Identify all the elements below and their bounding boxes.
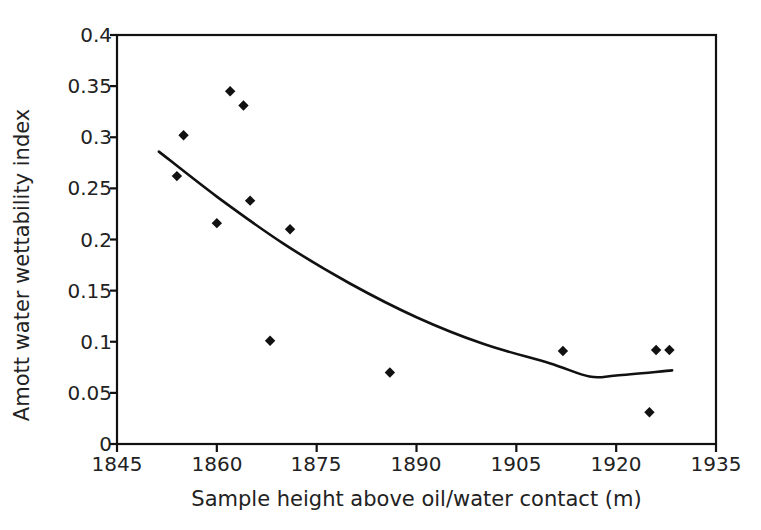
data-point-marker xyxy=(285,224,295,234)
x-axis-title: Sample height above oil/water contact (m… xyxy=(117,487,716,511)
trendline xyxy=(159,152,672,378)
y-tick-label: 0.15 xyxy=(52,279,112,303)
x-tick-label: 1920 xyxy=(571,452,661,476)
data-point-marker xyxy=(644,407,654,417)
x-tick-label: 1935 xyxy=(671,452,761,476)
y-tick-label: 0.25 xyxy=(52,176,112,200)
y-tick-label: 0.4 xyxy=(52,23,112,47)
plot-area xyxy=(0,0,761,530)
data-point-marker xyxy=(172,171,182,181)
x-tick-label: 1860 xyxy=(172,452,262,476)
data-point-marker xyxy=(385,367,395,377)
y-tick-label: 0.05 xyxy=(52,381,112,405)
data-point-marker xyxy=(178,130,188,140)
data-point-marker xyxy=(651,345,661,355)
y-axis-title: Amott water wettability index xyxy=(0,0,44,530)
data-point-marker xyxy=(245,195,255,205)
data-point-marker xyxy=(225,86,235,96)
data-point-marker xyxy=(664,345,674,355)
x-tick-label: 1890 xyxy=(371,452,461,476)
y-tick-label: 0.2 xyxy=(52,228,112,252)
data-point-marker xyxy=(558,346,568,356)
axes-frame xyxy=(117,35,716,444)
data-point-marker xyxy=(212,218,222,228)
x-tick-label: 1845 xyxy=(72,452,162,476)
y-tick-label: 0.3 xyxy=(52,125,112,149)
x-tick-marks xyxy=(117,444,716,452)
x-tick-label: 1875 xyxy=(271,452,361,476)
y-tick-label: 0.35 xyxy=(52,74,112,98)
y-tick-label: 0.1 xyxy=(52,330,112,354)
data-point-group xyxy=(172,86,675,417)
x-tick-label: 1905 xyxy=(471,452,561,476)
data-point-marker xyxy=(238,100,248,110)
scatter-chart-figure: Amott water wettability index 0.4 0.35 0… xyxy=(0,0,761,530)
data-point-marker xyxy=(265,336,275,346)
y-tick-label-group: 0.4 0.35 0.3 0.25 0.2 0.15 0.1 0.05 0 xyxy=(40,0,112,530)
plot-frame xyxy=(117,35,716,444)
